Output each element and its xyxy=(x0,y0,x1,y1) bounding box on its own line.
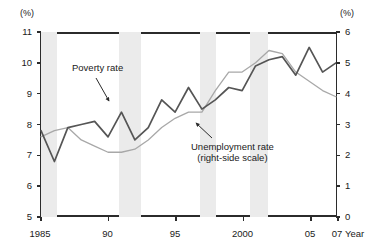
x-axis-tick-label: 90 xyxy=(88,228,128,239)
x-axis-tick xyxy=(108,217,109,221)
right-axis-tick-label: 3 xyxy=(345,119,367,130)
left-axis-tick-label: 5 xyxy=(10,211,32,222)
right-axis-tick-label: 2 xyxy=(345,149,367,160)
poverty-rate-annotation: Poverty rate xyxy=(72,62,123,73)
x-axis-tick-label: 95 xyxy=(155,228,195,239)
left-axis-tick xyxy=(37,31,41,32)
x-axis-tick xyxy=(310,217,311,221)
right-axis-tick-label: 5 xyxy=(345,57,367,68)
x-axis-tick xyxy=(243,217,244,221)
left-axis-tick xyxy=(37,185,41,186)
x-axis-tick xyxy=(40,217,41,221)
chart-figure: (%) (%) 56789101101234561985909520000507… xyxy=(0,0,381,250)
right-axis-tick xyxy=(336,31,340,32)
left-axis-tick xyxy=(37,62,41,63)
x-axis-tick xyxy=(337,217,338,221)
right-axis-tick xyxy=(336,93,340,94)
right-axis-tick xyxy=(336,62,340,63)
right-axis-tick-label: 6 xyxy=(345,26,367,37)
right-axis-tick-label: 0 xyxy=(345,211,367,222)
x-axis-tick-label: 2000 xyxy=(223,228,263,239)
left-axis-tick-label: 8 xyxy=(10,119,32,130)
x-axis-title: Year xyxy=(345,228,364,239)
right-axis-tick xyxy=(336,155,340,156)
left-axis-tick-label: 10 xyxy=(10,57,32,68)
left-axis-tick xyxy=(37,93,41,94)
left-axis-unit-label: (%) xyxy=(20,8,34,18)
unemployment-rate-annotation: Unemployment rate (right-side scale) xyxy=(191,141,274,163)
right-axis-tick xyxy=(336,185,340,186)
right-axis-tick xyxy=(336,124,340,125)
left-axis-tick-label: 7 xyxy=(10,149,32,160)
left-axis-tick-label: 9 xyxy=(10,88,32,99)
left-axis-tick xyxy=(37,124,41,125)
left-axis-tick-label: 11 xyxy=(10,26,32,37)
x-axis-tick-label: 1985 xyxy=(20,228,60,239)
left-axis-tick xyxy=(37,155,41,156)
left-axis-tick-label: 6 xyxy=(10,180,32,191)
unemployment-rate-annotation-line1: Unemployment rate xyxy=(191,141,274,152)
unemployment-rate-annotation-line2: (right-side scale) xyxy=(191,152,274,163)
poverty-rate-annotation-text: Poverty rate xyxy=(72,62,123,73)
x-axis-tick xyxy=(175,217,176,221)
data-series-layer xyxy=(41,32,336,217)
right-axis-tick-label: 4 xyxy=(345,88,367,99)
right-axis-unit-label: (%) xyxy=(340,8,354,18)
plot-area xyxy=(40,32,337,217)
right-axis-tick-label: 1 xyxy=(345,180,367,191)
